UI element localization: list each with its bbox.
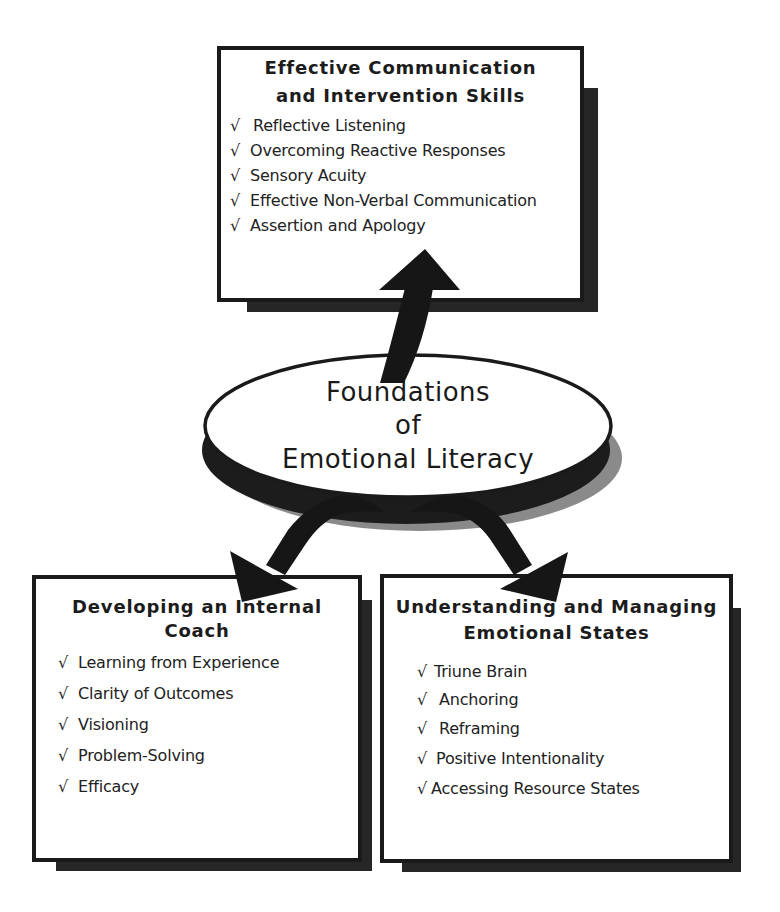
arrow-up-icon xyxy=(379,249,460,383)
arrows-layer xyxy=(0,0,780,912)
arrow-down-left-icon xyxy=(230,495,385,602)
arrow-down-right-icon xyxy=(411,496,568,602)
